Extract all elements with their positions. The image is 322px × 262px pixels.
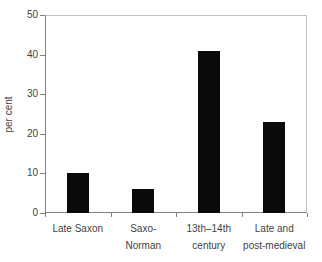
x-category-label: Saxo- Norman — [106, 220, 182, 254]
y-tick-mark — [40, 55, 45, 56]
y-tick-mark — [40, 15, 45, 16]
y-tick-mark — [40, 94, 45, 95]
x-category-label: Late and post-medieval — [237, 220, 313, 254]
y-tick-mark — [40, 134, 45, 135]
y-tick-label: 10 — [2, 167, 38, 179]
bar — [132, 189, 154, 213]
y-tick-label: 50 — [2, 9, 38, 21]
y-tick-label: 40 — [2, 49, 38, 61]
x-category-label: 13th–14th century — [171, 220, 247, 254]
bar — [67, 173, 89, 213]
x-tick-mark — [242, 213, 243, 217]
x-tick-mark — [176, 213, 177, 217]
bar — [198, 51, 220, 213]
y-tick-mark — [40, 173, 45, 174]
y-axis-title: per cent — [3, 70, 14, 160]
x-tick-mark — [111, 213, 112, 217]
x-tick-mark — [307, 213, 308, 217]
bar — [263, 122, 285, 213]
x-category-label: Late Saxon — [40, 220, 116, 237]
y-tick-label: 30 — [2, 88, 38, 100]
y-tick-label: 20 — [2, 128, 38, 140]
y-tick-label: 0 — [2, 207, 38, 219]
x-tick-mark — [45, 213, 46, 217]
bar-chart: per cent 01020304050 Late SaxonSaxo- Nor… — [0, 0, 322, 262]
